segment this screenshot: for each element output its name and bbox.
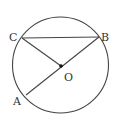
- label-b: B: [101, 31, 109, 44]
- chord-cb: [22, 37, 99, 38]
- center-point-o: [59, 64, 63, 68]
- label-c: C: [9, 31, 17, 44]
- circle-diagram: C B O A: [0, 0, 118, 121]
- label-o: O: [64, 71, 73, 84]
- segment-co: [22, 38, 61, 66]
- label-a: A: [12, 95, 22, 108]
